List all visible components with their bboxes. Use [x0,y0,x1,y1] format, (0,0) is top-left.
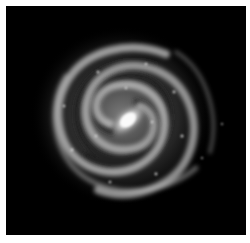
galaxy-image [6,6,246,235]
galaxy-illustration [6,6,246,235]
